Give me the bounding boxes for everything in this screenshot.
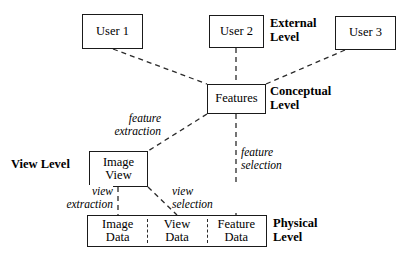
cell-image-data[interactable]: Image Data <box>88 216 147 246</box>
node-user3[interactable]: User 3 <box>335 16 396 50</box>
node-label-user3: User 3 <box>346 26 385 40</box>
edge-label-feature-selection: feature selection <box>241 146 311 172</box>
node-user2[interactable]: User 2 <box>209 15 264 48</box>
level-label-conceptual-level: Conceptual Level <box>270 85 331 112</box>
node-features[interactable]: Features <box>207 84 266 114</box>
cell-feature-data[interactable]: Feature Data <box>207 216 266 246</box>
physical-level-row: Image DataView DataFeature Data <box>87 215 267 247</box>
cell-label-feature-data: Feature Data <box>218 218 255 245</box>
cell-label-image-data: Image Data <box>102 218 133 245</box>
node-imageview[interactable]: Image View <box>89 151 148 187</box>
level-label-external-level: External Level <box>270 17 317 44</box>
node-user1[interactable]: User 1 <box>82 14 143 49</box>
cell-view-data[interactable]: View Data <box>147 216 206 246</box>
edge-user3-features <box>266 50 345 84</box>
node-label-features: Features <box>212 92 260 106</box>
architecture-diagram: User 1User 2User 3FeaturesImage View Ima… <box>0 0 404 262</box>
level-label-physical-level: Physical Level <box>273 217 317 244</box>
level-label-view-level: View Level <box>11 158 70 172</box>
node-label-user2: User 2 <box>217 25 256 39</box>
edge-label-feature-extraction: feature extraction <box>91 112 161 138</box>
edge-label-view-extraction: view extraction <box>39 185 113 211</box>
edge-user1-features <box>113 49 207 84</box>
node-label-user1: User 1 <box>93 25 132 39</box>
cell-label-view-data: View Data <box>164 218 190 245</box>
node-label-imageview: Image View <box>100 156 137 183</box>
edge-label-view-selection: view selection <box>172 185 242 211</box>
